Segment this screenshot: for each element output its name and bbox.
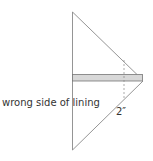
- measurement-label: 2″: [116, 106, 126, 117]
- upper-diagonal: [73, 12, 138, 75]
- lower-diagonal: [73, 81, 144, 150]
- binding-strip: [73, 75, 143, 82]
- triangle-diagram: [0, 0, 153, 161]
- lining-label: wrong side of lining: [2, 97, 100, 108]
